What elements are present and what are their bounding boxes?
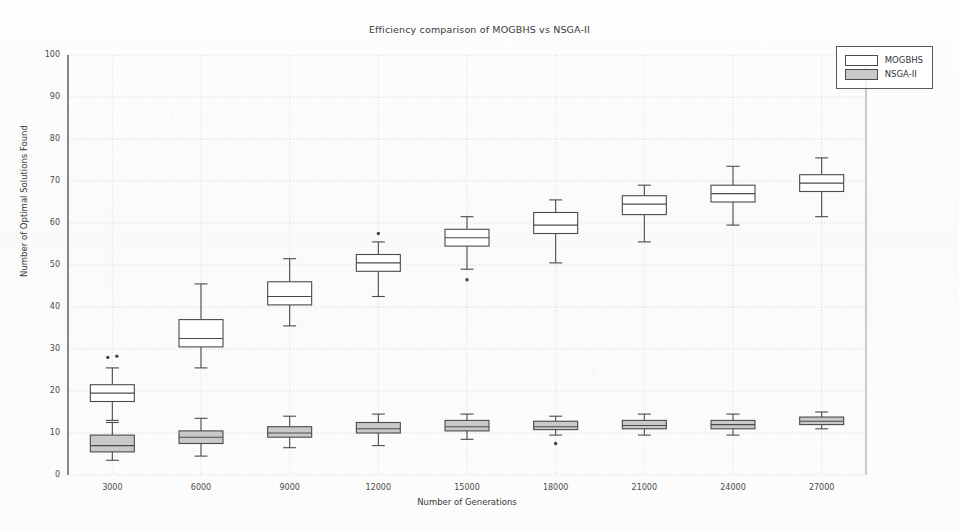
outlier-point <box>115 354 118 357</box>
y-tick-label: 30 <box>26 344 60 353</box>
x-tick-label: 27000 <box>787 483 857 492</box>
y-tick-label: 60 <box>26 218 60 227</box>
x-tick-label: 3000 <box>77 483 147 492</box>
y-tick-label: 40 <box>26 302 60 311</box>
x-tick-label: 18000 <box>521 483 591 492</box>
plot-canvas <box>0 0 959 531</box>
y-tick-label: 0 <box>26 470 60 479</box>
legend-item-mogbhs[interactable]: MOGBHS <box>845 54 923 67</box>
legend-label: NSGA-II <box>885 70 917 79</box>
box-nsga-ii-21000 <box>622 420 666 428</box>
x-tick-label: 15000 <box>432 483 502 492</box>
x-tick-label: 21000 <box>609 483 679 492</box>
box-nsga-ii-15000 <box>445 420 489 431</box>
outlier-point <box>377 232 380 235</box>
legend-swatch-icon <box>845 69 878 80</box>
y-tick-label: 20 <box>26 386 60 395</box>
box-mogbhs-21000 <box>622 196 666 215</box>
y-tick-label: 90 <box>26 92 60 101</box>
legend-label: MOGBHS <box>885 56 923 65</box>
x-tick-label: 24000 <box>698 483 768 492</box>
y-tick-label: 80 <box>26 134 60 143</box>
outlier-point <box>465 278 468 281</box>
box-nsga-ii-12000 <box>356 423 400 434</box>
boxplot-figure: Efficiency comparison of MOGBHS vs NSGA-… <box>0 0 959 531</box>
box-nsga-ii-3000 <box>90 435 134 452</box>
y-tick-label: 10 <box>26 428 60 437</box>
legend-swatch-icon <box>845 55 878 66</box>
legend-item-nsga-ii[interactable]: NSGA-II <box>845 68 923 81</box>
outlier-point <box>106 356 109 359</box>
box-mogbhs-18000 <box>534 213 578 234</box>
box-mogbhs-6000 <box>179 320 223 347</box>
y-tick-label: 50 <box>26 260 60 269</box>
x-tick-label: 12000 <box>343 483 413 492</box>
box-nsga-ii-9000 <box>268 427 312 438</box>
x-tick-label: 6000 <box>166 483 236 492</box>
box-mogbhs-9000 <box>268 282 312 305</box>
box-nsga-ii-18000 <box>534 421 578 429</box>
y-tick-label: 70 <box>26 176 60 185</box>
x-tick-label: 9000 <box>255 483 325 492</box>
legend: MOGBHSNSGA-II <box>836 46 933 89</box>
outlier-point <box>554 442 557 445</box>
y-tick-label: 100 <box>26 50 60 59</box>
